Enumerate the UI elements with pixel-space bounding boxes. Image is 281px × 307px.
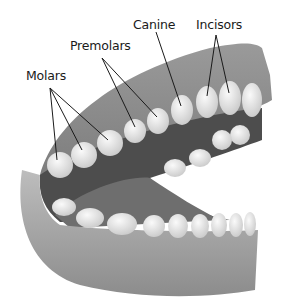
label-molars: Molars [26, 68, 66, 83]
label-premolars: Premolars [70, 38, 131, 53]
jaw-illustration [0, 0, 281, 307]
teeth-diagram: Molars Premolars Canine Incisors [0, 0, 281, 307]
label-incisors: Incisors [196, 17, 242, 32]
label-canine: Canine [133, 17, 175, 32]
